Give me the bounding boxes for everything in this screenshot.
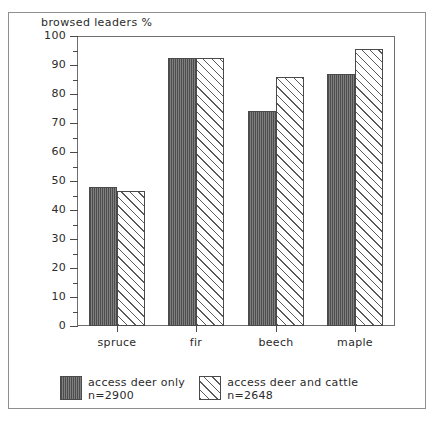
- y-tick-major: [70, 297, 78, 298]
- legend: access deer onlyn=2900access deer and ca…: [60, 376, 358, 402]
- legend-series-name: access deer and cattle: [227, 376, 358, 389]
- legend-sample-size: n=2648: [227, 389, 358, 402]
- bar-beech-series1: [248, 111, 276, 326]
- legend-sample-size: n=2900: [88, 389, 185, 402]
- y-tick-label: 10: [26, 290, 66, 303]
- bar-fir-series2: [196, 58, 224, 326]
- legend-swatch-series2: [199, 376, 221, 400]
- y-tick-minor: [73, 167, 78, 168]
- y-tick-major: [70, 36, 78, 37]
- y-tick-minor: [73, 138, 78, 139]
- chart-figure: browsed leaders % 0102030405060708090100…: [0, 0, 435, 422]
- y-tick-major: [70, 268, 78, 269]
- y-tick-minor: [73, 254, 78, 255]
- y-tick-label: 100: [26, 29, 66, 42]
- y-tick-label: 0: [26, 319, 66, 332]
- y-tick-major: [70, 239, 78, 240]
- y-tick-label: 20: [26, 261, 66, 274]
- y-tick-major: [70, 65, 78, 66]
- y-tick-minor: [73, 283, 78, 284]
- x-tick-label: fir: [190, 336, 202, 349]
- bar-maple-series1: [327, 74, 355, 326]
- y-tick-label: 60: [26, 145, 66, 158]
- legend-label: access deer and cattlen=2648: [227, 376, 358, 402]
- y-tick-minor: [73, 51, 78, 52]
- y-tick-minor: [73, 109, 78, 110]
- y-tick-minor: [73, 225, 78, 226]
- bar-spruce-series2: [117, 191, 145, 326]
- legend-entry: access deer onlyn=2900: [60, 376, 185, 402]
- y-tick-major: [70, 94, 78, 95]
- y-tick-major: [70, 210, 78, 211]
- y-tick-major: [70, 181, 78, 182]
- legend-label: access deer onlyn=2900: [88, 376, 185, 402]
- y-tick-label: 30: [26, 232, 66, 245]
- y-tick-label: 80: [26, 87, 66, 100]
- x-tick: [355, 326, 356, 332]
- y-tick-label: 50: [26, 174, 66, 187]
- x-tick: [117, 326, 118, 332]
- legend-series-name: access deer only: [88, 376, 185, 389]
- bar-beech-series2: [276, 77, 304, 326]
- y-tick-label: 40: [26, 203, 66, 216]
- bar-fir-series1: [168, 58, 196, 326]
- legend-entry: access deer and cattlen=2648: [199, 376, 358, 402]
- x-tick-label: beech: [258, 336, 293, 349]
- x-tick-label: spruce: [98, 336, 137, 349]
- y-tick-label: 90: [26, 58, 66, 71]
- x-tick: [276, 326, 277, 332]
- y-tick-minor: [73, 196, 78, 197]
- y-tick-label: 70: [26, 116, 66, 129]
- y-tick-major: [70, 326, 78, 327]
- x-tick-label: maple: [337, 336, 373, 349]
- y-tick-major: [70, 123, 78, 124]
- bar-maple-series2: [355, 49, 383, 326]
- bar-spruce-series1: [89, 187, 117, 326]
- y-tick-minor: [73, 312, 78, 313]
- legend-swatch-series1: [60, 376, 82, 400]
- y-tick-major: [70, 152, 78, 153]
- x-tick: [196, 326, 197, 332]
- y-tick-minor: [73, 80, 78, 81]
- chart-title: browsed leaders %: [41, 16, 152, 29]
